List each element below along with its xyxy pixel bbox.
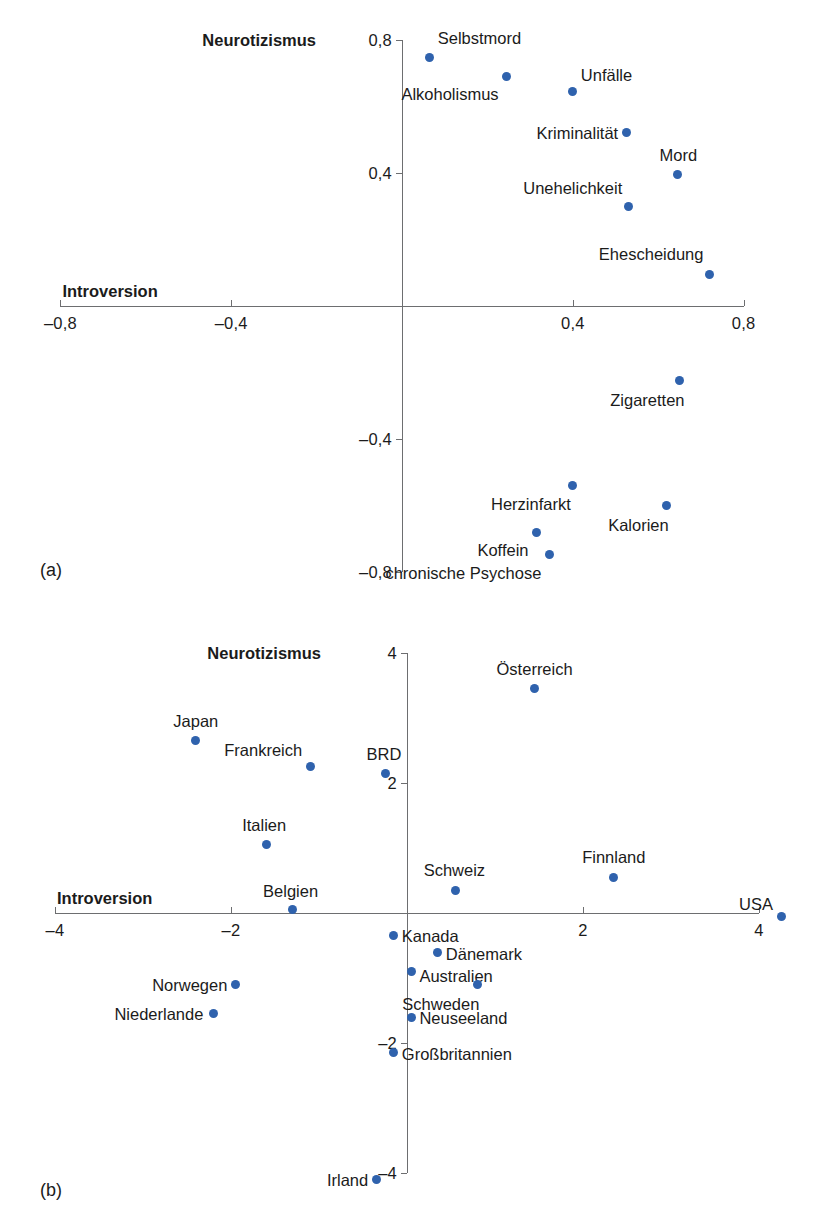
data-point (381, 769, 390, 778)
data-point (568, 87, 577, 96)
y-axis-title: Neurotizismus (0, 31, 316, 50)
data-point-label: Großbritannien (402, 1046, 512, 1063)
data-point-label: Australien (419, 967, 492, 984)
data-point (532, 528, 541, 537)
data-point-label: Unfälle (581, 67, 632, 84)
y-axis-tick (396, 40, 402, 41)
panel-a-tag: (a) (40, 560, 62, 581)
data-point-label: Ehescheidung (599, 246, 704, 263)
y-axis-tick (396, 173, 402, 174)
x-axis-tick (231, 300, 232, 306)
data-point (407, 1013, 416, 1022)
panel-b-tag: (b) (40, 1180, 62, 1201)
data-point-label: Kanada (402, 928, 459, 945)
data-point-label: Frankreich (224, 742, 302, 759)
data-point (705, 270, 714, 279)
x-axis-tick-label: 0,4 (533, 314, 613, 333)
x-axis-tick (744, 300, 745, 306)
y-axis-line (402, 40, 403, 573)
data-point-label: Schweiz (424, 862, 485, 879)
data-point-label: Belgien (263, 883, 318, 900)
data-point-label: Herzinfarkt (491, 496, 571, 513)
data-point (675, 376, 684, 385)
x-axis-tick-label: –4 (15, 921, 95, 940)
data-point (624, 202, 633, 211)
data-point-label: Dänemark (446, 946, 522, 963)
plot-area-a: –0,8–0,40,40,80,80,4–0,4–0,8Introversion… (0, 0, 813, 610)
data-point (389, 1048, 398, 1057)
data-point (451, 886, 460, 895)
data-point (673, 170, 682, 179)
data-point-label: Österreich (497, 661, 573, 678)
x-axis-tick-label: 4 (719, 921, 799, 940)
data-point (662, 501, 671, 510)
data-point (407, 967, 416, 976)
data-point-label: Selbstmord (438, 30, 521, 47)
data-point (372, 1175, 381, 1184)
y-axis-title: Neurotizismus (0, 644, 321, 663)
x-axis-tick (60, 300, 61, 306)
x-axis-tick (573, 300, 574, 306)
x-axis-tick (583, 907, 584, 913)
data-point (262, 840, 271, 849)
data-point (473, 980, 482, 989)
data-point (545, 550, 554, 559)
data-point-label: USA (739, 896, 773, 913)
plot-area-b: –4–22442–2–4IntroversionNeurotizismusÖst… (0, 610, 813, 1227)
x-axis-tick (231, 907, 232, 913)
data-point-label: Koffein (477, 542, 528, 559)
data-point (502, 72, 511, 81)
x-axis-tick-label: –0,8 (20, 314, 100, 333)
data-point-label: chronische Psychose (385, 565, 541, 582)
x-axis-tick-label: –2 (191, 921, 271, 940)
data-point (622, 128, 631, 137)
data-point-label: Irland (327, 1171, 368, 1188)
x-axis-tick (55, 907, 56, 913)
data-point-label: Zigaretten (610, 392, 684, 409)
data-point (530, 684, 539, 693)
x-axis-title: Introversion (62, 282, 157, 301)
data-point (609, 873, 618, 882)
data-point-label: BRD (367, 746, 402, 763)
panel-a-scatter: –0,8–0,40,40,80,80,4–0,4–0,8Introversion… (0, 0, 813, 610)
y-axis-tick (401, 1173, 407, 1174)
y-axis-tick-label: 0,4 (322, 164, 392, 183)
data-point (306, 762, 315, 771)
data-point (433, 948, 442, 957)
data-point-label: Kriminalität (537, 125, 619, 142)
y-axis-tick-label: –0,8 (322, 563, 392, 582)
data-point (777, 912, 786, 921)
data-point-label: Kalorien (608, 517, 669, 534)
x-axis-tick-label: 0,8 (704, 314, 784, 333)
x-axis-tick-label: –0,4 (191, 314, 271, 333)
y-axis-tick-label: –2 (327, 1034, 397, 1053)
panel-b-scatter: –4–22442–2–4IntroversionNeurotizismusÖst… (0, 610, 813, 1227)
data-point (209, 1009, 218, 1018)
y-axis-line (407, 653, 408, 1173)
data-point-label: Neuseeland (419, 1010, 507, 1027)
data-point (389, 931, 398, 940)
data-point-label: Norwegen (152, 976, 227, 993)
data-point-label: Unehelichkeit (523, 180, 622, 197)
y-axis-tick (396, 439, 402, 440)
data-point (231, 980, 240, 989)
y-axis-tick-label: 0,8 (322, 31, 392, 50)
x-axis-tick-label: 2 (543, 921, 623, 940)
x-axis-title: Introversion (57, 889, 152, 908)
data-point (425, 53, 434, 62)
y-axis-tick-label: –0,4 (322, 430, 392, 449)
y-axis-tick (401, 783, 407, 784)
y-axis-tick-label: 4 (327, 644, 397, 663)
data-point-label: Finnland (582, 849, 645, 866)
y-axis-tick (401, 653, 407, 654)
data-point-label: Alkoholismus (401, 86, 498, 103)
data-point-label: Italien (242, 817, 286, 834)
data-point-label: Mord (660, 147, 698, 164)
data-point (191, 736, 200, 745)
data-point-label: Niederlande (114, 1006, 203, 1023)
data-point-label: Japan (173, 713, 218, 730)
data-point (568, 481, 577, 490)
